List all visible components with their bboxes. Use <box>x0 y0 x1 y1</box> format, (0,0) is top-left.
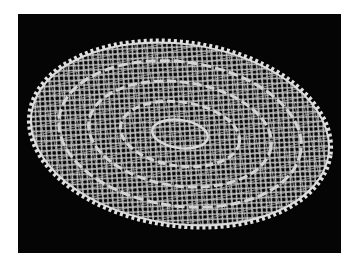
doily-illustration <box>18 14 341 253</box>
lace-doily-photo <box>18 14 341 253</box>
